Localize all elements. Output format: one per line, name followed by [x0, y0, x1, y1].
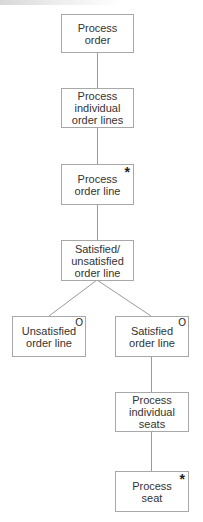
node-process-order-line: Process order line *	[61, 164, 134, 205]
node-process-individual-order-lines: Process individual order lines	[61, 88, 134, 128]
node-process-individual-seats: Process individual seats	[115, 392, 189, 432]
node-label: Unsatisfied order line	[22, 325, 76, 349]
iteration-marker-icon: *	[180, 473, 185, 485]
node-satisfied-unsatisfied-order-line: Satisfied/ unsatisfied order line	[61, 240, 134, 281]
node-label: Process individual order lines	[72, 90, 123, 126]
selection-marker-icon: O	[178, 317, 186, 329]
node-label: Satisfied order line	[129, 325, 175, 349]
edge-selection-to-unsatisfied	[49, 280, 97, 316]
node-label: Satisfied/ unsatisfied order line	[71, 243, 124, 279]
node-process-seat: Process seat *	[115, 471, 189, 512]
node-label: Process individual seats	[129, 394, 175, 430]
node-satisfied-order-line: Satisfied order line O	[115, 316, 189, 357]
node-unsatisfied-order-line: Unsatisfied order line O	[12, 316, 86, 357]
node-label: Process seat	[132, 480, 172, 504]
node-label: Process order	[78, 22, 118, 46]
node-label: Process order line	[75, 173, 121, 197]
selection-marker-icon: O	[75, 317, 83, 329]
edge-selection-to-satisfied	[97, 280, 151, 316]
iteration-marker-icon: *	[125, 166, 130, 178]
node-process-order: Process order	[61, 14, 134, 53]
